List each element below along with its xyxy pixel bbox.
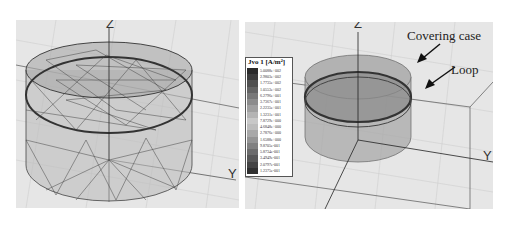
z-axis-label: Z [106, 20, 114, 31]
legend-title: Jvo 1 [A/m²] [246, 58, 292, 67]
loop-label: Loop [451, 62, 478, 78]
covering-case-label: Covering case [407, 28, 481, 44]
wireframe-cylinder-graphic [16, 20, 239, 208]
left-wireframe-view: Z Y [16, 20, 239, 208]
legend-value-list: 5.0088e+0022.9803e+0021.7735e+0021.0553e… [258, 68, 291, 174]
z-axis-label: Z [354, 22, 362, 31]
y-axis-label: Y [483, 148, 492, 163]
current-density-legend: Jvo 1 [A/m²] 5.0088e+0022.9803e+0021.773… [245, 57, 293, 177]
legend-color-scale [247, 68, 258, 174]
legend-value: 1.2375e-001 [258, 168, 291, 174]
y-axis-label: Y [228, 166, 237, 181]
legend-swatch [247, 168, 258, 174]
